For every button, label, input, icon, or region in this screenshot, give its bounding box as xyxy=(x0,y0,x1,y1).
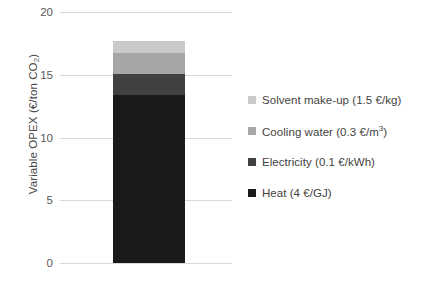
legend-item[interactable]: Heat (4 €/GJ) xyxy=(248,177,423,208)
bar-segment[interactable] xyxy=(113,41,185,54)
y-axis-title-subscript: 2 xyxy=(32,58,41,63)
bar-segment[interactable] xyxy=(113,95,185,263)
y-tick-label-15: 15 xyxy=(40,69,53,81)
legend-swatch-icon xyxy=(248,158,256,166)
legend-item-label: Solvent make-up (1.5 €/kg) xyxy=(262,94,401,106)
y-axis-title-main: Variable OPEX (€/ton CO xyxy=(27,62,39,194)
y-tick-label-20: 20 xyxy=(40,6,53,18)
gridline-0: 0 xyxy=(60,263,232,264)
legend-swatch-icon xyxy=(248,127,256,135)
stacked-bar[interactable] xyxy=(113,41,185,263)
legend-item-label: Cooling water (0.3 €/m3) xyxy=(262,124,387,138)
legend-item-label: Electricity (0.1 €/kWh) xyxy=(262,156,375,168)
legend-item[interactable]: Solvent make-up (1.5 €/kg) xyxy=(248,84,423,115)
y-tick-label-5: 5 xyxy=(47,194,53,206)
y-tick-label-0: 0 xyxy=(47,257,53,269)
y-axis-title: Variable OPEX (€/ton CO2) xyxy=(27,29,39,219)
bar-segment[interactable] xyxy=(113,74,185,95)
gridline-20: 20 xyxy=(60,12,232,13)
y-tick-label-10: 10 xyxy=(40,132,53,144)
chart-legend: Solvent make-up (1.5 €/kg)Cooling water … xyxy=(248,84,423,208)
legend-label-superscript: 3 xyxy=(379,124,384,133)
bar-segment[interactable] xyxy=(113,53,185,73)
chart-container: Variable OPEX (€/ton CO2) 20151050 Solve… xyxy=(0,0,423,284)
legend-swatch-icon xyxy=(248,189,256,197)
legend-item[interactable]: Cooling water (0.3 €/m3) xyxy=(248,115,423,146)
legend-item-label: Heat (4 €/GJ) xyxy=(262,187,332,199)
plot-area: 20151050 xyxy=(60,12,232,270)
legend-swatch-icon xyxy=(248,96,256,104)
legend-item[interactable]: Electricity (0.1 €/kWh) xyxy=(248,146,423,177)
